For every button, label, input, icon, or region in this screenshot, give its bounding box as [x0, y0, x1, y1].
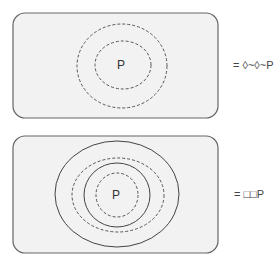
center-label-p: P [112, 188, 120, 202]
equation-necessarily: = □□P [234, 188, 264, 200]
equation-possibly: = ◊~◊~P [233, 59, 274, 71]
modal-diagrams [0, 0, 280, 261]
center-label-p: P [117, 58, 125, 72]
diagram-possibly-possibly [13, 13, 218, 118]
world-box [13, 13, 218, 118]
